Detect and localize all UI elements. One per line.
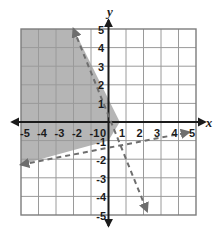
y-tick-label: -4 — [96, 191, 107, 203]
y-tick-label: 1 — [98, 98, 104, 110]
y-tick-label: -5 — [96, 210, 106, 222]
x-tick-label: 4 — [171, 127, 178, 139]
x-tick-label: -4 — [37, 127, 48, 139]
y-tick-label: -2 — [96, 154, 106, 166]
x-tick-label: -2 — [72, 127, 82, 139]
x-tick-label: 1 — [119, 127, 125, 139]
x-axis-label: x — [205, 115, 213, 130]
y-tick-label: 5 — [98, 24, 104, 36]
y-tick-label: -1 — [96, 136, 106, 148]
x-tick-label: 3 — [154, 127, 160, 139]
y-tick-label: -3 — [96, 173, 106, 185]
y-tick-label: 4 — [98, 42, 105, 54]
y-tick-label: 2 — [98, 79, 104, 91]
x-tick-label: 5 — [189, 127, 195, 139]
y-tick-label: 3 — [98, 61, 104, 73]
graph-canvas: -5 -4 -3 -2 -1 0 1 2 3 4 5 5 4 3 2 1 -1 … — [0, 0, 217, 235]
coordinate-plane-figure: -5 -4 -3 -2 -1 0 1 2 3 4 5 5 4 3 2 1 -1 … — [0, 0, 217, 235]
x-tick-label: -5 — [20, 127, 30, 139]
x-tick-label: 2 — [136, 127, 142, 139]
y-axis-label: y — [105, 4, 113, 19]
x-tick-label: -3 — [55, 127, 65, 139]
